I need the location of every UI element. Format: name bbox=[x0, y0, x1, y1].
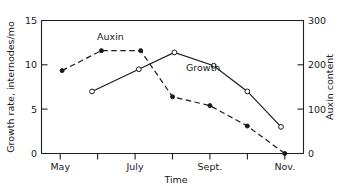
data-point-auxin-1 bbox=[99, 49, 103, 53]
data-point-auxin-3 bbox=[171, 95, 175, 99]
series-line-auxin bbox=[62, 51, 285, 154]
y2-axis-title: Auxin content bbox=[324, 54, 335, 120]
x-tick-label-sept: Sept. bbox=[198, 161, 223, 172]
left-tick-label-10: 10 bbox=[25, 59, 37, 70]
series-auxin bbox=[60, 49, 287, 156]
x-tick-label-may: May bbox=[50, 161, 70, 172]
x-tick-label-july: July bbox=[126, 161, 144, 172]
series-label-growth: Growth bbox=[186, 62, 220, 73]
x-axis-title: Time bbox=[163, 174, 187, 185]
data-point-auxin-4 bbox=[208, 104, 212, 108]
right-tick-label-0: 0 bbox=[308, 148, 314, 159]
chart-canvas: 15 10 5 0 300 200 100 0 May July Sept. N… bbox=[0, 0, 342, 186]
y-axis-title: Growth rate, internodes/mo bbox=[5, 21, 16, 153]
data-point-auxin-2 bbox=[139, 49, 143, 53]
data-point-auxin-0 bbox=[60, 69, 64, 73]
left-tick-label-5: 5 bbox=[31, 104, 37, 115]
data-point-growth-4 bbox=[245, 89, 250, 94]
left-tick-label-15: 15 bbox=[25, 15, 37, 26]
x-tick-label-nov: Nov. bbox=[274, 161, 295, 172]
right-tick-label-300: 300 bbox=[308, 15, 326, 26]
series-label-auxin: Auxin bbox=[97, 31, 124, 42]
data-point-growth-1 bbox=[136, 67, 141, 72]
data-point-auxin-5 bbox=[245, 124, 249, 128]
data-point-growth-5 bbox=[279, 125, 284, 130]
data-point-auxin-6 bbox=[283, 152, 287, 156]
data-point-growth-0 bbox=[90, 89, 95, 94]
left-tick-label-0: 0 bbox=[31, 148, 37, 159]
chart-figure: 15 10 5 0 300 200 100 0 May July Sept. N… bbox=[0, 0, 342, 186]
data-point-growth-2 bbox=[172, 50, 177, 55]
